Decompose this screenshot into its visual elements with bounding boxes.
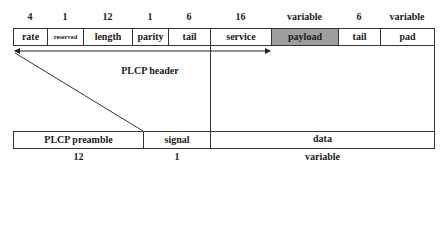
plcp-header-label: PLCP header xyxy=(100,65,200,77)
field-data: data xyxy=(210,131,435,149)
field-plcp-preamble: PLCP preamble xyxy=(13,131,144,149)
size-data: variable xyxy=(210,151,435,163)
size-signal: 1 xyxy=(143,151,211,163)
field-signal: signal xyxy=(143,131,211,149)
size-plcp-preamble: 12 xyxy=(13,151,144,163)
